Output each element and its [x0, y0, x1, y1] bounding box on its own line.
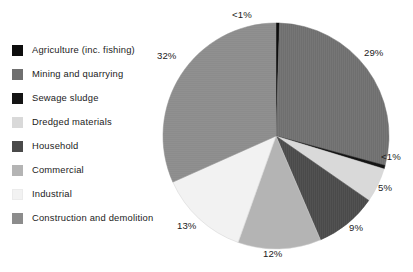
- pie-label-mining-and-quarrying: 29%: [364, 48, 384, 58]
- legend: Agriculture (inc. fishing)Mining and qua…: [12, 38, 172, 230]
- legend-label-mining-and-quarrying: Mining and quarrying: [32, 69, 123, 78]
- pie-chart-figure: <1%29%<1%5%9%12%13%32% Agriculture (inc.…: [0, 0, 413, 272]
- legend-item-household: Household: [12, 134, 172, 158]
- pie-label-household: 9%: [349, 223, 363, 233]
- legend-swatch-commercial: [12, 165, 23, 176]
- legend-label-household: Household: [32, 141, 79, 150]
- legend-swatch-mining-and-quarrying: [12, 69, 23, 80]
- legend-swatch-agriculture-inc-fishing: [12, 45, 23, 56]
- legend-swatch-dredged-materials: [12, 117, 23, 128]
- pie-label-dredged-materials: 5%: [378, 183, 392, 193]
- legend-label-commercial: Commercial: [32, 165, 84, 174]
- legend-swatch-sewage-sludge: [12, 93, 23, 104]
- legend-item-agriculture-inc-fishing: Agriculture (inc. fishing): [12, 38, 172, 62]
- legend-label-dredged-materials: Dredged materials: [32, 117, 112, 126]
- legend-item-construction-and-demolition: Construction and demolition: [12, 206, 172, 230]
- legend-item-commercial: Commercial: [12, 158, 172, 182]
- legend-swatch-construction-and-demolition: [12, 213, 23, 224]
- pie-label-sewage-sludge: <1%: [381, 152, 401, 162]
- legend-label-industrial: Industrial: [32, 189, 72, 198]
- legend-item-sewage-sludge: Sewage sludge: [12, 86, 172, 110]
- legend-item-dredged-materials: Dredged materials: [12, 110, 172, 134]
- legend-label-construction-and-demolition: Construction and demolition: [32, 213, 153, 222]
- legend-item-industrial: Industrial: [12, 182, 172, 206]
- pie-label-industrial: 13%: [177, 221, 197, 231]
- legend-swatch-household: [12, 141, 23, 152]
- legend-swatch-industrial: [12, 189, 23, 200]
- legend-item-mining-and-quarrying: Mining and quarrying: [12, 62, 172, 86]
- pie-label-agriculture: <1%: [232, 10, 252, 20]
- legend-label-sewage-sludge: Sewage sludge: [32, 93, 99, 102]
- pie-label-commercial: 12%: [263, 249, 283, 259]
- legend-label-agriculture-inc-fishing: Agriculture (inc. fishing): [32, 45, 135, 54]
